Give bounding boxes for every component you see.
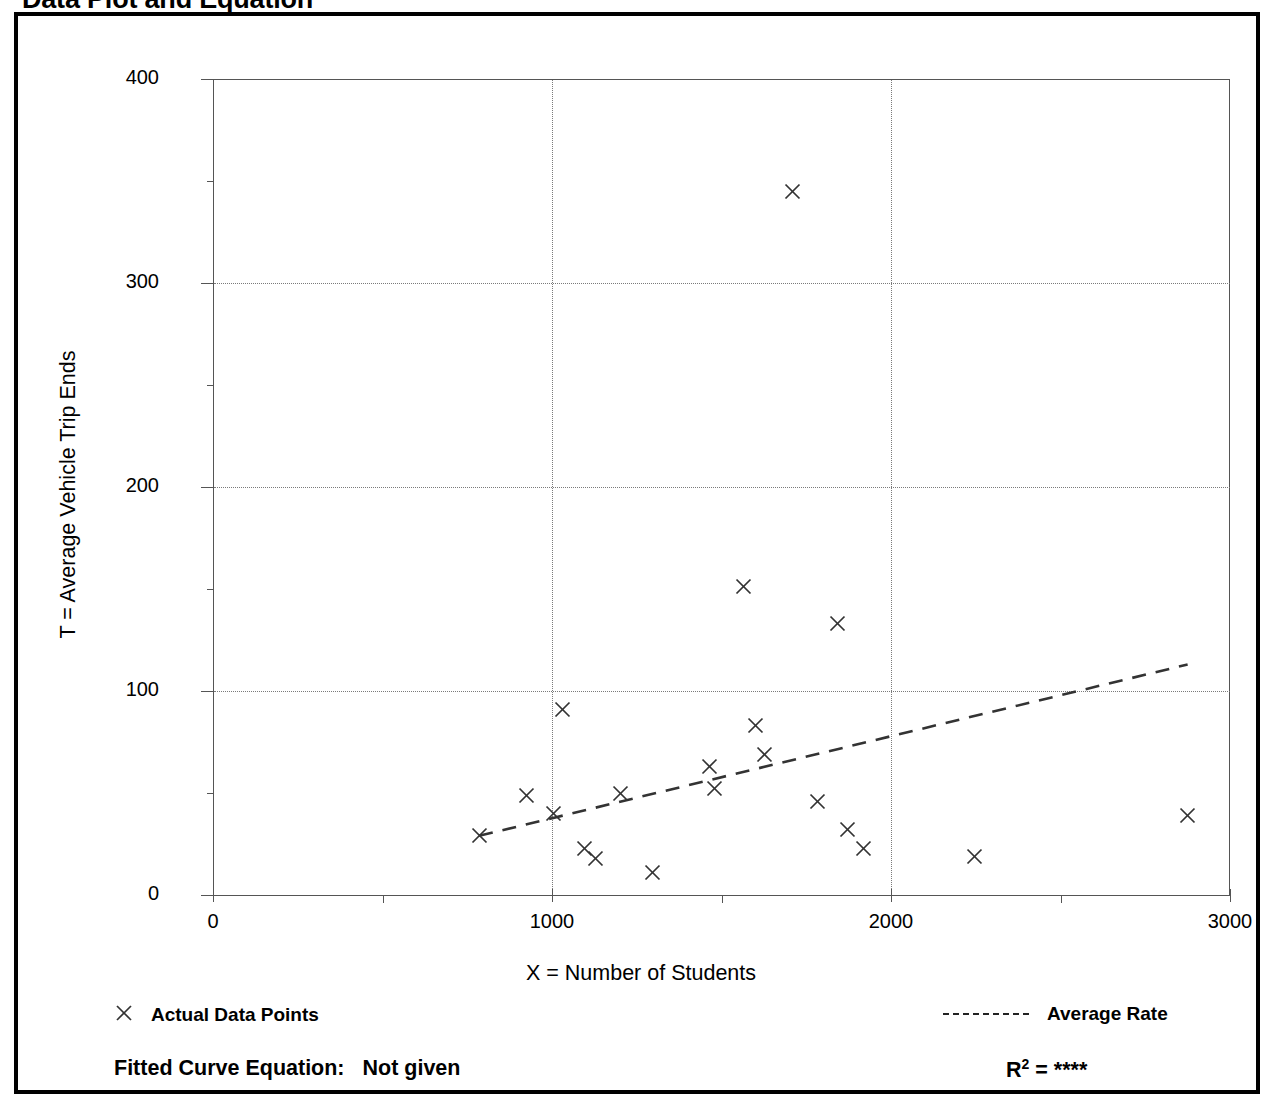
- r-squared-prefix: R: [1006, 1058, 1022, 1082]
- x-axis-tick-label: 2000: [869, 910, 914, 933]
- y-axis-tick-label: 100: [126, 678, 159, 701]
- legend-label-average-rate: Average Rate: [1047, 1003, 1168, 1025]
- y-axis-title: T = Average Vehicle Trip Ends: [56, 155, 81, 835]
- x-axis-tick-label: 3000: [1208, 910, 1253, 933]
- y-axis-tick-label: 200: [126, 474, 159, 497]
- x-axis-tick-label: 1000: [530, 910, 575, 933]
- gridline-vertical: [552, 80, 553, 895]
- gridline-horizontal: [214, 691, 1230, 692]
- x-axis-tick-minor: [383, 895, 384, 903]
- r-squared-exponent: 2: [1022, 1056, 1030, 1072]
- x-axis-tick: [213, 889, 214, 902]
- fitted-curve-label: Fitted Curve Equation:: [114, 1056, 345, 1080]
- r-squared-value: R2 = ****: [1006, 1056, 1087, 1083]
- gridline-horizontal: [214, 283, 1230, 284]
- x-axis-tick-label: 0: [207, 910, 218, 933]
- y-axis-tick-minor: [207, 589, 214, 590]
- dashed-line-icon: [943, 1013, 1029, 1015]
- x-marker-icon: [114, 1003, 134, 1027]
- y-axis-tick: [201, 691, 214, 692]
- legend-label-actual-data-points: Actual Data Points: [151, 1004, 319, 1026]
- legend-item-actual-data-points: Actual Data Points: [114, 1003, 319, 1027]
- y-axis-tick-minor: [207, 385, 214, 386]
- r-squared-equals: =: [1035, 1058, 1048, 1082]
- legend: Actual Data Points Average Rate: [18, 1003, 1264, 1039]
- fitted-curve-value: Not given: [362, 1056, 460, 1080]
- x-axis-title: X = Number of Students: [18, 961, 1264, 986]
- r-squared-stars: ****: [1054, 1058, 1087, 1082]
- x-axis-tick: [891, 889, 892, 902]
- fitted-curve-equation: Fitted Curve Equation: Not given: [114, 1056, 460, 1081]
- figure-frame: 01002003004000100020003000 T = Average V…: [14, 12, 1260, 1094]
- legend-item-average-rate: Average Rate: [943, 1003, 1168, 1025]
- footer: Fitted Curve Equation: Not given R2 = **…: [18, 1056, 1264, 1096]
- y-axis-tick-label: 300: [126, 270, 159, 293]
- x-axis-tick: [552, 889, 553, 902]
- y-axis-tick-minor: [207, 793, 214, 794]
- y-axis-tick-label: 0: [148, 882, 159, 905]
- x-axis-tick: [1230, 889, 1231, 902]
- y-axis-tick: [201, 283, 214, 284]
- figure-page: Data Plot and Equation 01002003004000100…: [0, 0, 1274, 1108]
- y-axis-tick-minor: [207, 181, 214, 182]
- x-axis-tick-minor: [722, 895, 723, 903]
- gridline-vertical: [891, 80, 892, 895]
- gridline-horizontal: [214, 487, 1230, 488]
- y-axis-tick: [201, 487, 214, 488]
- y-axis-tick: [201, 79, 214, 80]
- y-axis-tick-label: 400: [126, 66, 159, 89]
- x-axis-tick-minor: [1061, 895, 1062, 903]
